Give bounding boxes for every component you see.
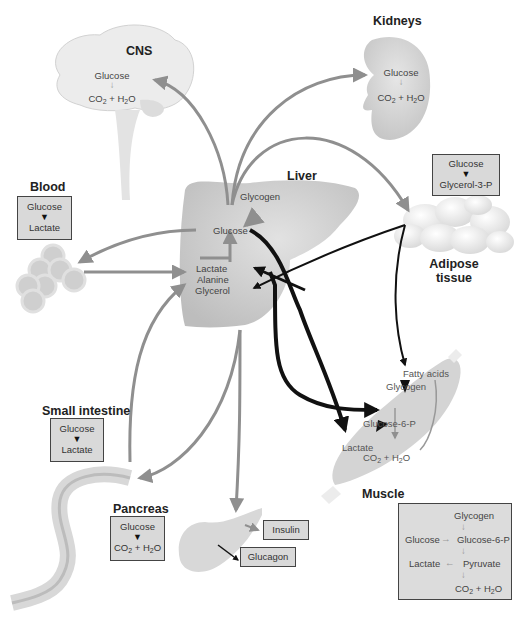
blood-reaction-to: Lactate [18,222,71,234]
arrow-down-icon: ▼ [433,170,499,179]
arrow-down-icon: ▼ [111,533,164,542]
muscle-fatty-acids: Fatty acids [403,368,449,379]
arrow-right-icon: → [441,533,451,544]
pathway-glycogen: Glycogen [454,510,494,521]
muscle-glucose-6-p: Glucose-6-P [363,418,416,429]
insulin-box: Insulin [263,520,309,540]
blood-label: Blood [30,180,65,194]
kidneys-reaction-to: CO2 + H2O [368,92,434,104]
adipose-label: Adipose tissue [424,257,484,285]
liver-lactate: Lactate [196,263,227,274]
muscle-glycogen: Glycogen [386,381,426,392]
kidneys-arrow-icon: ↓ [372,76,430,87]
liver-glycerol: Glycerol [195,285,230,296]
small-intestine-label: Small intestine [42,404,130,418]
adipose-reaction-box: Glucose ▼ Glycerol-3-P [432,154,500,196]
arrow-down-icon: ↓ [461,569,466,580]
brain-illustration [56,25,194,200]
blood-cells-illustration [17,245,85,312]
cns-label: CNS [126,44,152,58]
pancreas-label: Pancreas [113,502,169,516]
kidney-illustration [363,37,430,140]
kidneys-label: Kidneys [373,14,422,28]
pancreas-reaction-box: Glucose ▼ CO2 + H2O [110,516,165,561]
pathway-glucose: Glucose [405,534,440,545]
muscle-pathway-box: Glycogen ↓ Glucose → Glucose-6-P ↓ Lacta… [398,503,512,600]
arrow-down-icon: ▼ [51,435,103,444]
muscle-label: Muscle [362,487,404,501]
cns-arrow-icon: ↓ [82,79,142,90]
arrow-down-icon: ↓ [461,545,466,556]
pathway-pyruvate: Pyruvate [463,558,501,569]
liver-alanine: Alanine [197,274,229,285]
blood-reaction-box: Glucose ▼ Lactate [17,196,72,240]
pathway-glucose-6-p: Glucose-6-P [457,534,510,545]
adipose-reaction-to: Glycerol-3-P [433,179,499,191]
pathway-lactate: Lactate [409,558,440,569]
liver-label: Liver [287,169,317,183]
glucagon-box: Glucagon [240,547,296,567]
adipose-illustration [394,195,514,254]
arrow-down-icon: ↓ [461,521,466,532]
cns-reaction-to: CO2 + H2O [78,93,146,105]
arrow-left-icon: ← [445,557,455,568]
small-intestine-reaction-box: Glucose ▼ Lactate [50,418,104,462]
pancreas-reaction-to: CO2 + H2O [111,542,164,557]
liver-glucose: Glucose [213,225,248,236]
liver-glycogen: Glycogen [240,191,280,202]
liver-illustration [180,180,359,327]
small-intestine-reaction-to: Lactate [51,444,103,456]
muscle-product: CO2 + H2O [363,452,410,464]
arrow-down-icon: ▼ [18,213,71,222]
pathway-product: CO2 + H2O [455,583,502,595]
